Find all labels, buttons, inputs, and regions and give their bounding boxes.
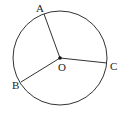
radius-oc	[60, 58, 107, 63]
label-a: A	[36, 2, 44, 14]
circle-diagram: A B C O	[0, 0, 128, 115]
center-dot	[58, 56, 62, 60]
label-c: C	[110, 60, 117, 72]
label-o: O	[58, 61, 66, 73]
radius-oa	[44, 14, 60, 58]
label-b: B	[12, 79, 19, 91]
radius-ob	[21, 58, 60, 82]
